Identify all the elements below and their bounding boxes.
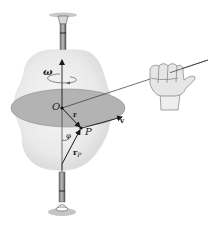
rotating-body-diagram <box>0 0 221 226</box>
origin-point-o <box>60 106 63 109</box>
omega-label: ω <box>43 67 53 77</box>
rp-vector-label: rP <box>73 148 81 158</box>
right-hand-icon <box>150 64 195 110</box>
bottom-bearing-mount <box>48 172 76 216</box>
point-p-label: P <box>85 127 92 137</box>
r-vector-label: r <box>73 111 77 118</box>
phi-label: φ <box>66 133 71 140</box>
velocity-label: v <box>120 117 124 124</box>
origin-label: O <box>52 102 60 112</box>
point-p <box>79 126 82 129</box>
rp-subscript: P <box>77 151 81 158</box>
top-bearing-mount <box>49 13 77 51</box>
